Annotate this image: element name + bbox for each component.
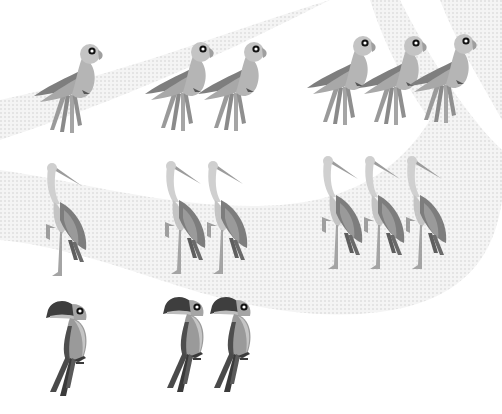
- toucan-icon: [161, 296, 211, 396]
- parrot-icon: [196, 36, 276, 135]
- heron-icon: [203, 158, 258, 280]
- parrot-icon: [406, 28, 486, 127]
- parrot-icon: [32, 38, 112, 137]
- heron-icon: [402, 153, 457, 275]
- worksheet-canvas: [0, 0, 502, 414]
- toucan-icon: [208, 296, 258, 396]
- toucan-icon: [44, 300, 94, 400]
- heron-icon: [42, 160, 97, 282]
